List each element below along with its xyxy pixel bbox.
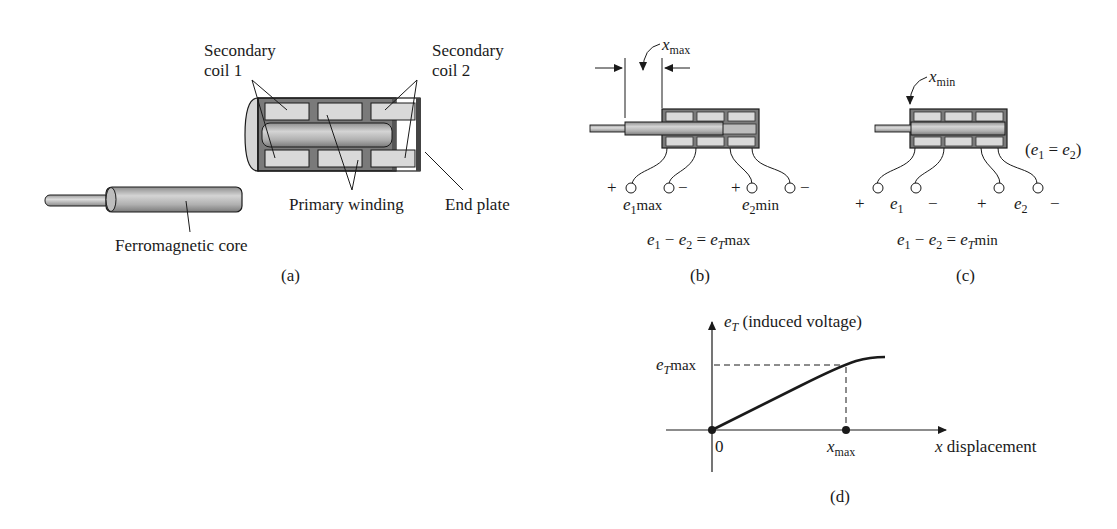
lvdt-figure: Secondary coil 1 Secondary coil 2 Primar… — [0, 0, 1117, 529]
core-rod-b — [590, 125, 628, 132]
xmax-label-b: xmax — [661, 35, 690, 57]
plus-terminal-1-b: + — [607, 178, 617, 197]
core-b — [625, 122, 723, 135]
y-tick-etmax: eTmax — [656, 355, 697, 377]
label-secondary-coil-2-line1: Secondary — [432, 41, 504, 60]
secondary-coil-2-bottom — [371, 150, 415, 167]
label-secondary-coil-1-line1: Secondary — [204, 41, 276, 60]
e1max-label: e1max — [623, 195, 663, 217]
label-ferromagnetic-core: Ferromagnetic core — [115, 236, 248, 255]
origin-point — [708, 426, 716, 434]
lvdt-housing — [245, 98, 415, 171]
secondary-coil-1-top — [265, 103, 309, 120]
equation-c: e1 − e2 = eTmin — [897, 230, 998, 252]
caption-a: (a) — [281, 266, 300, 285]
terminals-c — [873, 183, 1043, 193]
panel-d: eT (induced voltage) eTmax 0 xmax x disp… — [656, 312, 1037, 506]
primary-coil-top — [318, 103, 362, 120]
panel-c: xmin (e1 = e2) + − + − e1 e2 e1 − e2 = e… — [855, 67, 1082, 285]
xmin-label-c: xmin — [928, 67, 955, 89]
e2-label-c: e2 — [1014, 194, 1028, 216]
minus-terminal-1-b: − — [678, 178, 688, 197]
plus-terminal-1-c: + — [855, 194, 865, 213]
induced-voltage-curve — [712, 357, 885, 430]
equation-b: e1 − e2 = eTmax — [647, 230, 751, 252]
graph-axes — [666, 322, 946, 472]
label-primary-winding: Primary winding — [289, 195, 404, 214]
e2min-label: e2min — [742, 195, 779, 217]
y-axis-label: eT (induced voltage) — [724, 312, 862, 334]
xmax-point — [842, 426, 850, 434]
ferromagnetic-core — [45, 187, 242, 212]
caption-b: (b) — [690, 266, 710, 285]
minus-terminal-2-b: − — [800, 178, 810, 197]
label-secondary-coil-2-line2: coil 2 — [432, 61, 470, 80]
x-axis-label: x displacement — [934, 437, 1037, 456]
secondary-coil-1-bottom — [265, 150, 309, 167]
x-tick-xmax: xmax — [826, 437, 855, 459]
origin-label: 0 — [715, 437, 724, 456]
plus-terminal-2-b: + — [731, 178, 741, 197]
panel-b: xmax + − + − e1max e2min e1 − e2 = eTmax… — [590, 35, 810, 285]
plus-terminal-2-c: + — [977, 194, 987, 213]
caption-c: (c) — [956, 266, 975, 285]
equal-note-c: (e1 = e2) — [1025, 140, 1082, 162]
label-secondary-coil-1-line2: coil 1 — [204, 61, 242, 80]
panel-a: Secondary coil 1 Secondary coil 2 Primar… — [45, 41, 510, 285]
secondary-coil-2-top — [371, 103, 415, 120]
e1-label-c: e1 — [890, 194, 904, 216]
core-c — [911, 122, 1005, 135]
label-end-plate: End plate — [445, 195, 510, 214]
terminals-b — [626, 183, 795, 193]
core-rod-c — [875, 125, 913, 132]
minus-terminal-1-c: − — [928, 194, 938, 213]
minus-terminal-2-c: − — [1050, 194, 1060, 213]
caption-d: (d) — [830, 487, 850, 506]
